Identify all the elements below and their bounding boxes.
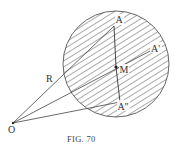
figure-diagram: A A' M A'' R O FIG. 70 xyxy=(0,0,180,155)
point-M xyxy=(114,65,117,68)
label-A: A xyxy=(116,14,124,25)
label-A-prime: A' xyxy=(151,43,160,54)
label-M: M xyxy=(120,64,129,75)
label-R: R xyxy=(46,73,53,84)
figure-caption: FIG. 70 xyxy=(67,134,96,144)
label-A-double-prime: A'' xyxy=(118,101,129,112)
label-O: O xyxy=(8,124,15,135)
